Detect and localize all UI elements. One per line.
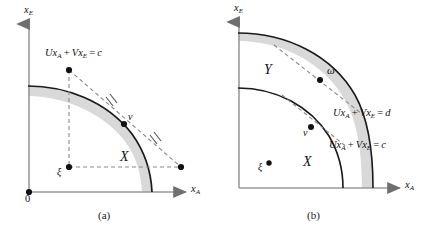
panel-a-point-label-xi: ξ (57, 167, 61, 177)
panel-b-dot-omega (317, 77, 323, 83)
panel-b (238, 22, 400, 188)
panel-b-point-label-v: v (303, 128, 307, 138)
panel-b-region-label-x: X (303, 155, 312, 169)
panel-a-x-axis-label: xA (191, 184, 200, 196)
panel-a-y-axis-label: xE (24, 5, 33, 17)
panel-a-budget-line-label: UxA + VxE = c (45, 48, 102, 60)
panel-a-point-label-v: v (128, 112, 132, 122)
panel-a-dot-xi (66, 164, 72, 170)
panel-b-dot-xi (266, 160, 271, 165)
panel-b-line-label-inner: UxA + VxE = c (329, 140, 386, 152)
panel-a-dot-v (121, 121, 127, 127)
panel-b-inner-curve (238, 88, 343, 188)
panel-b-region-label-y: Y (264, 63, 272, 77)
panel-b-point-label-omega: ω (327, 65, 335, 76)
panel-b-caption: (b) (307, 209, 320, 221)
panel-b-y-axis-label: xE (234, 3, 243, 15)
panel-b-point-label-xi: ξ (258, 162, 262, 172)
panel-a-origin-label: 0 (25, 194, 30, 205)
panel-b-x-axis-label: xA (405, 180, 414, 192)
panel-a-hash-mark-lower (150, 132, 161, 144)
panel-a-gray-band (28, 86, 152, 192)
panel-a-dot-upper (66, 67, 72, 73)
panel-a-region-label-x: X (120, 150, 129, 164)
panel-b-line-label-outer: UxA + VxE = d (333, 108, 391, 120)
panel-b-dot-v (308, 124, 314, 130)
panel-a-caption: (a) (98, 209, 110, 221)
panel-a-dot-right (178, 164, 184, 170)
